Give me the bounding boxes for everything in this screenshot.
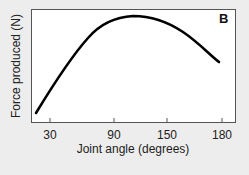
x-tick-label-180: 180 xyxy=(212,128,232,142)
x-tick-label-30: 30 xyxy=(43,128,56,142)
y-axis-label: Force produced (N) xyxy=(9,14,23,118)
x-tick-label-150: 150 xyxy=(157,128,177,142)
x-axis-label: Joint angle (degrees) xyxy=(77,142,190,156)
force-curve xyxy=(36,16,219,113)
panel-label: B xyxy=(219,11,228,26)
x-tick-label-90: 90 xyxy=(107,128,120,142)
